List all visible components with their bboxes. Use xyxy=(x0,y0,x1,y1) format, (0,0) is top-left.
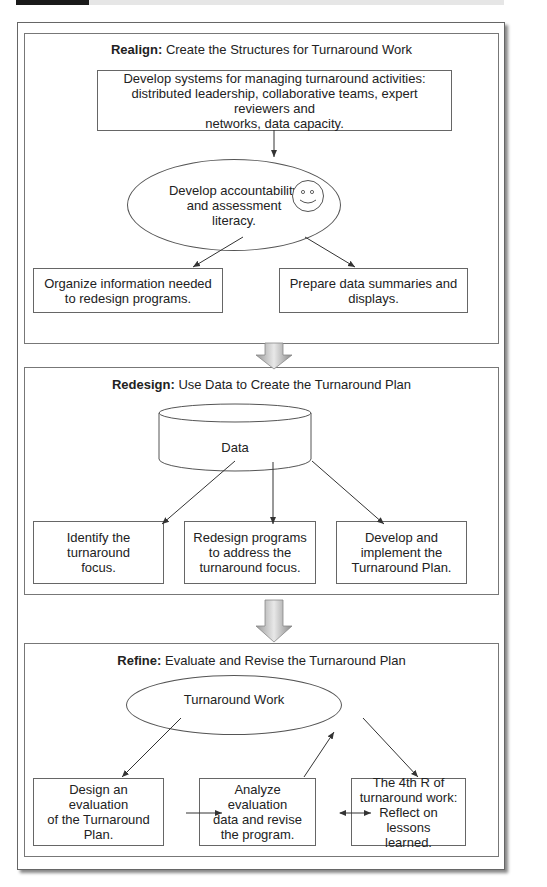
refine-heading: Evaluate and Revise the Turnaround Plan xyxy=(165,653,406,668)
realign-panel: Realign: Create the Structures for Turna… xyxy=(24,33,499,344)
redesign-title: Redesign: Use Data to Create the Turnaro… xyxy=(25,377,498,392)
analyze-evaluation-box: Analyze evaluation data and revise the p… xyxy=(199,778,316,846)
accountability-text: Develop accountability and assessment li… xyxy=(169,183,299,228)
redesign-panel: Redesign: Use Data to Create the Turnaro… xyxy=(24,367,499,595)
design-evaluation-box: Design an evaluation of the Turnaround P… xyxy=(33,778,164,846)
refine-label: Refine: xyxy=(117,653,161,668)
redesign-heading: Use Data to Create the Turnaround Plan xyxy=(178,377,411,392)
develop-implement-plan-box: Develop and implement the Turnaround Pla… xyxy=(336,521,467,584)
header-bar-dark xyxy=(16,0,89,5)
header-bar-light xyxy=(89,0,504,5)
redesign-label: Redesign: xyxy=(112,377,175,392)
organize-information-box: Organize information needed to redesign … xyxy=(33,268,223,313)
turnaround-work-text: Turnaround Work xyxy=(184,692,284,707)
develop-systems-box: Develop systems for managing turnaround … xyxy=(97,70,452,131)
turnaround-work-ellipse: Turnaround Work xyxy=(126,675,342,735)
refine-title: Refine: Evaluate and Revise the Turnarou… xyxy=(25,653,498,668)
realign-heading: Create the Structures for Turnaround Wor… xyxy=(166,42,412,57)
realign-title: Realign: Create the Structures for Turna… xyxy=(25,42,498,57)
redesign-programs-box: Redesign programs to address the turnaro… xyxy=(184,521,316,584)
data-cylinder-label: Data xyxy=(158,440,312,455)
data-cylinder: Data xyxy=(158,403,312,473)
smiley-face-icon xyxy=(291,179,325,213)
prepare-data-summaries-box: Prepare data summaries and displays. xyxy=(279,268,468,313)
fourth-r-reflect-box: The 4th R of turnaround work: Reflect on… xyxy=(351,778,466,846)
realign-label: Realign: xyxy=(111,42,162,57)
refine-panel: Refine: Evaluate and Revise the Turnarou… xyxy=(24,643,499,857)
identify-focus-box: Identify the turnaround focus. xyxy=(33,521,164,584)
